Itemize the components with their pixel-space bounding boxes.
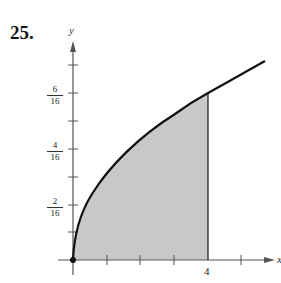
y-label-2-16: 2 16 xyxy=(47,197,63,218)
y-label-4-16: 4 16 xyxy=(47,141,63,162)
x-label-4: 4 xyxy=(204,265,210,277)
area-chart xyxy=(0,0,281,283)
origin-point xyxy=(70,257,76,263)
y-axis-arrow-icon xyxy=(70,41,76,52)
shaded-region xyxy=(73,93,208,260)
x-axis-arrow-icon xyxy=(264,257,275,263)
y-axis-label: y xyxy=(69,24,74,36)
y-label-6-16: 6 16 xyxy=(47,85,63,106)
x-axis-label: x xyxy=(277,253,281,265)
